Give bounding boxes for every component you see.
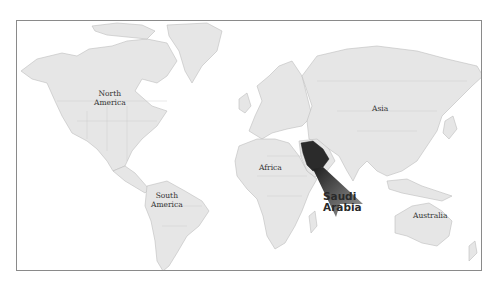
label-south-america-line2: America <box>151 200 183 209</box>
southeast-asia-islands <box>387 179 452 201</box>
label-australia: Australia <box>413 211 447 220</box>
callout-line2: Arabia <box>323 202 362 213</box>
map-frame: North America South America Africa Asia … <box>16 20 482 271</box>
europe-landmass <box>249 61 312 139</box>
label-north-america-line2: America <box>94 98 126 107</box>
label-africa: Africa <box>259 163 282 172</box>
greenland <box>167 23 222 83</box>
arctic-islands <box>92 23 155 39</box>
japan <box>443 116 457 139</box>
callout-saudi-arabia: Saudi Arabia <box>323 191 362 213</box>
uk-ireland <box>239 93 251 113</box>
label-north-america-line1: North <box>94 89 126 98</box>
label-asia: Asia <box>372 104 388 113</box>
label-south-america: South America <box>151 191 183 209</box>
central-america <box>113 166 149 193</box>
new-zealand <box>469 241 477 261</box>
label-south-america-line1: South <box>151 191 183 200</box>
madagascar <box>309 211 317 233</box>
australia-landmass <box>395 203 452 246</box>
world-map <box>17 21 482 271</box>
label-north-america: North America <box>94 89 126 107</box>
